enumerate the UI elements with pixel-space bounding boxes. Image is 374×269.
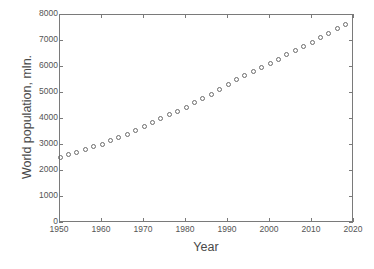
y-axis-tick-mark bbox=[59, 222, 63, 223]
data-point-marker bbox=[58, 155, 63, 160]
data-point-marker bbox=[125, 132, 130, 137]
x-axis-tick-mark-top bbox=[101, 14, 102, 18]
y-axis-tick-mark-right bbox=[349, 170, 353, 171]
plot-axes-box bbox=[59, 14, 353, 222]
data-point-marker bbox=[83, 147, 88, 152]
x-axis-tick-mark-top bbox=[185, 14, 186, 18]
y-axis-tick-mark-right bbox=[349, 144, 353, 145]
x-axis-tick-mark-top bbox=[269, 14, 270, 18]
y-axis-tick-mark-right bbox=[349, 66, 353, 67]
data-point-marker bbox=[242, 73, 247, 78]
data-point-marker bbox=[116, 135, 121, 140]
data-point-marker bbox=[74, 150, 79, 155]
x-axis-tick-mark bbox=[227, 218, 228, 222]
data-point-marker bbox=[268, 61, 273, 66]
data-point-marker bbox=[150, 120, 155, 125]
data-point-marker bbox=[100, 142, 105, 147]
y-axis-tick-mark-right bbox=[349, 196, 353, 197]
x-axis-tick-mark-top bbox=[311, 14, 312, 18]
data-point-marker bbox=[175, 109, 180, 114]
data-point-marker bbox=[142, 124, 147, 129]
x-axis-tick-mark bbox=[59, 218, 60, 222]
data-point-marker bbox=[167, 112, 172, 117]
y-axis-tick-label: 8000 bbox=[0, 9, 58, 18]
y-axis-tick-mark bbox=[59, 196, 63, 197]
y-axis-tick-mark bbox=[59, 144, 63, 145]
x-axis-tick-mark-top bbox=[59, 14, 60, 18]
data-point-marker bbox=[217, 87, 222, 92]
x-axis-tick-mark bbox=[269, 218, 270, 222]
scatter-series-world-population bbox=[60, 15, 352, 221]
x-axis-tick-mark bbox=[143, 218, 144, 222]
data-point-marker bbox=[310, 40, 315, 45]
data-point-marker bbox=[192, 100, 197, 105]
data-point-marker bbox=[66, 152, 71, 157]
x-axis-tick-mark bbox=[311, 218, 312, 222]
y-axis-tick-mark bbox=[59, 170, 63, 171]
x-axis-tick-label: 1990 bbox=[207, 224, 247, 234]
y-axis-tick-mark-right bbox=[349, 40, 353, 41]
y-axis-tick-mark bbox=[59, 118, 63, 119]
x-axis-tick-label: 1960 bbox=[81, 224, 121, 234]
y-axis-tick-mark bbox=[59, 66, 63, 67]
y-axis-title: World population, mln. bbox=[20, 22, 34, 212]
data-point-marker bbox=[293, 48, 298, 53]
y-axis-tick-mark-right bbox=[349, 118, 353, 119]
data-point-marker bbox=[301, 44, 306, 49]
data-point-marker bbox=[284, 52, 289, 57]
figure-container: 0100020003000400050006000700080001950196… bbox=[0, 0, 374, 269]
data-point-marker bbox=[326, 31, 331, 36]
y-axis-tick-mark-right bbox=[349, 222, 353, 223]
data-point-marker bbox=[259, 65, 264, 70]
data-point-marker bbox=[200, 96, 205, 101]
x-axis-tick-label: 1970 bbox=[123, 224, 163, 234]
data-point-marker bbox=[276, 57, 281, 62]
data-point-marker bbox=[343, 22, 348, 27]
x-axis-tick-mark-top bbox=[227, 14, 228, 18]
data-point-marker bbox=[184, 105, 189, 110]
x-axis-tick-label: 2000 bbox=[249, 224, 289, 234]
x-axis-tick-mark-top bbox=[353, 14, 354, 18]
x-axis-title: Year bbox=[59, 240, 353, 254]
data-point-marker bbox=[108, 138, 113, 143]
y-axis-tick-mark bbox=[59, 92, 63, 93]
y-axis-tick-mark bbox=[59, 40, 63, 41]
data-point-marker bbox=[251, 69, 256, 74]
x-axis-tick-label: 1980 bbox=[165, 224, 205, 234]
x-axis-tick-mark bbox=[185, 218, 186, 222]
data-point-marker bbox=[133, 128, 138, 133]
x-axis-tick-mark-top bbox=[143, 14, 144, 18]
data-point-marker bbox=[234, 77, 239, 82]
x-axis-tick-label: 2020 bbox=[333, 224, 373, 234]
data-point-marker bbox=[318, 35, 323, 40]
data-point-marker bbox=[158, 116, 163, 121]
data-point-marker bbox=[226, 82, 231, 87]
data-point-marker bbox=[91, 144, 96, 149]
data-point-marker bbox=[209, 92, 214, 97]
data-point-marker bbox=[335, 26, 340, 31]
x-axis-tick-label: 1950 bbox=[39, 224, 79, 234]
y-axis-tick-mark-right bbox=[349, 92, 353, 93]
x-axis-tick-label: 2010 bbox=[291, 224, 331, 234]
x-axis-tick-mark bbox=[353, 218, 354, 222]
x-axis-tick-mark bbox=[101, 218, 102, 222]
